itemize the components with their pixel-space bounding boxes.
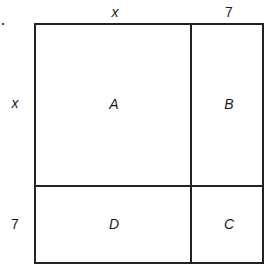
- outer-border-left: [34, 23, 36, 264]
- outer-border-top: [34, 23, 264, 25]
- vertical-divider: [190, 23, 192, 264]
- region-label-b: B: [219, 97, 239, 111]
- side-label-7: 7: [5, 217, 25, 231]
- area-model-diagram: x 7 x 7 A B C D: [0, 0, 269, 268]
- region-label-a: A: [104, 97, 124, 111]
- side-label-x: x: [5, 96, 25, 110]
- horizontal-divider: [34, 185, 264, 187]
- top-label-x: x: [105, 5, 125, 19]
- outer-border-right: [262, 23, 264, 264]
- stray-mark: [2, 23, 4, 25]
- outer-border-bottom: [34, 262, 264, 264]
- top-label-7: 7: [219, 5, 239, 19]
- region-label-d: D: [104, 217, 124, 231]
- region-label-c: C: [219, 217, 239, 231]
